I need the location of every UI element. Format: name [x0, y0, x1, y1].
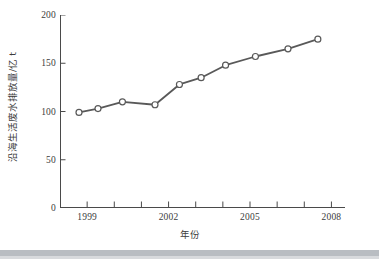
plot-area — [60, 15, 345, 208]
y-axis-tick-label: 100 — [30, 107, 56, 117]
data-point-marker — [119, 99, 125, 105]
y-axis-tick-label: 50 — [30, 155, 56, 165]
data-point-marker — [223, 62, 229, 68]
data-point-marker — [285, 46, 291, 52]
y-axis-tick-labels: 050100150200 — [26, 0, 56, 246]
data-point-marker — [315, 36, 321, 42]
y-axis-tick-label: 150 — [30, 58, 56, 68]
x-axis-tick-label: 2002 — [159, 212, 179, 223]
data-point-marker — [76, 109, 82, 115]
page-bottom-band-shadow — [0, 256, 379, 259]
x-axis-tick-label: 2005 — [240, 212, 260, 223]
data-point-marker — [198, 75, 204, 81]
data-point-marker — [252, 54, 258, 60]
y-axis-title: 沿海生活废水排放量/亿 t — [5, 22, 19, 192]
line-chart-svg — [60, 15, 345, 208]
x-axis-ticks — [87, 202, 331, 208]
chart-figure: 050100150200 1999200220052008 年份 沿海生活废水排… — [0, 0, 379, 246]
x-axis-title: 年份 — [0, 227, 379, 241]
data-series-markers — [76, 36, 321, 115]
x-axis-tick-labels: 1999200220052008 — [0, 212, 379, 226]
x-axis-tick-label: 1999 — [77, 212, 97, 223]
x-axis-tick-label: 2008 — [322, 212, 342, 223]
data-point-marker — [152, 102, 158, 108]
data-point-marker — [95, 106, 101, 112]
y-axis-ticks — [61, 15, 66, 208]
data-point-marker — [176, 81, 182, 87]
y-axis-tick-label: 200 — [30, 10, 56, 20]
